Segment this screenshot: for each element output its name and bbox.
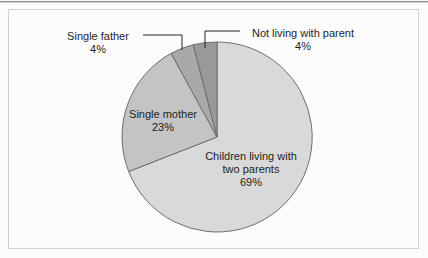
chart-page: Single father 4% Not living with parent … [0, 0, 428, 258]
slice-label-single-father-text: Single father [67, 30, 129, 42]
slice-label-children-living-with-two-parents: Children living with two parents 69% [190, 150, 312, 189]
slice-label-two-parents-value: 69% [190, 176, 312, 189]
slice-label-single-mother: Single mother 23% [118, 108, 208, 134]
single-father-leader-line [143, 35, 182, 50]
slice-label-single-mother-value: 23% [118, 121, 208, 134]
slice-label-two-parents-line1: Children living with [205, 150, 297, 162]
slice-label-single-father: Single father 4% [56, 30, 140, 56]
slice-label-single-father-value: 4% [56, 43, 140, 56]
slice-label-not-living-with-parent-text: Not living with parent [252, 27, 354, 39]
slice-label-single-mother-text: Single mother [129, 108, 197, 120]
slice-label-two-parents-line2: two parents [190, 163, 312, 176]
slice-label-not-living-with-parent: Not living with parent 4% [243, 27, 363, 53]
slice-label-not-living-with-parent-value: 4% [243, 40, 363, 53]
